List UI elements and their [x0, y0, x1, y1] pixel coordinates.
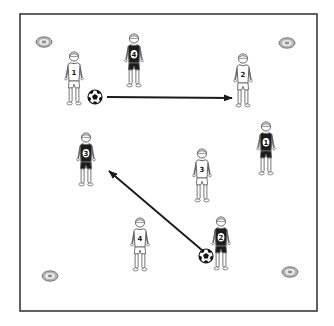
player-hand-right — [147, 243, 150, 246]
player-leg-left — [197, 185, 200, 200]
player-hand-right — [81, 77, 84, 80]
player-hand-left — [125, 59, 128, 62]
player-foot-left — [195, 199, 200, 202]
player-hand-left — [65, 77, 68, 80]
cone-center — [48, 275, 53, 278]
player-leg-right — [76, 88, 79, 103]
player-foot-left — [236, 104, 241, 107]
cone-center — [285, 42, 290, 45]
player-foot-right — [136, 84, 141, 87]
player-foot-right — [142, 268, 147, 271]
player-foot-right — [245, 104, 250, 107]
player-hand-left — [131, 243, 134, 246]
jersey-number: 4 — [138, 235, 143, 243]
player-hand-right — [141, 59, 144, 62]
player-hand-left — [193, 174, 196, 177]
player-hand-right — [250, 79, 253, 82]
player-foot-left — [79, 183, 84, 186]
corner-cone — [36, 37, 52, 47]
jersey-number: 2 — [241, 71, 246, 79]
corner-cone — [42, 271, 58, 281]
drill-diagram: 14213342 — [0, 0, 334, 326]
player-foot-right — [223, 267, 228, 270]
jersey-number: 3 — [84, 150, 89, 158]
player-leg-right — [245, 90, 248, 105]
player-leg-left — [238, 90, 241, 105]
player-leg-right — [136, 70, 139, 85]
jersey-number: 2 — [219, 234, 224, 242]
player-leg-left — [261, 158, 264, 173]
player-hand-right — [209, 174, 212, 177]
player-hand-right — [228, 242, 231, 245]
cone-center — [42, 41, 47, 44]
player-hand-left — [257, 147, 260, 150]
player-leg-right — [268, 158, 271, 173]
player-foot-right — [268, 172, 273, 175]
player-foot-right — [88, 183, 93, 186]
player-leg-left — [216, 253, 219, 268]
player-leg-left — [81, 169, 84, 184]
player-foot-right — [76, 102, 81, 105]
player-foot-left — [133, 268, 138, 271]
corner-cone — [279, 38, 295, 48]
jersey-number: 3 — [200, 166, 205, 174]
jersey-number: 1 — [72, 69, 77, 77]
player-foot-right — [204, 199, 209, 202]
player-leg-left — [129, 70, 132, 85]
jersey-number: 4 — [132, 51, 137, 59]
player-foot-left — [127, 84, 132, 87]
player-leg-left — [69, 88, 72, 103]
cone-center — [288, 271, 293, 274]
player-hand-right — [273, 147, 276, 150]
player-hand-left — [77, 158, 80, 161]
player-leg-right — [142, 254, 145, 269]
player-hand-left — [234, 79, 237, 82]
player-leg-right — [223, 253, 226, 268]
field-border — [20, 14, 317, 311]
player-foot-left — [214, 267, 219, 270]
field-canvas: 14213342 — [0, 0, 334, 326]
player-hand-left — [212, 242, 215, 245]
jersey-number: 1 — [264, 139, 269, 147]
pass-arrow — [107, 97, 232, 98]
player-foot-left — [259, 172, 264, 175]
player-leg-left — [135, 254, 138, 269]
player-hand-right — [93, 158, 96, 161]
corner-cone — [282, 267, 298, 277]
player-leg-right — [204, 185, 207, 200]
player-leg-right — [88, 169, 91, 184]
player-foot-left — [67, 102, 72, 105]
